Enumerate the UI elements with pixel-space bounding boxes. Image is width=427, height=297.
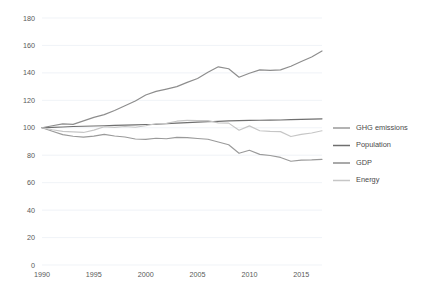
x-axis-tick-label: 2000 bbox=[138, 270, 154, 279]
y-axis-tick-label: 100 bbox=[23, 123, 35, 132]
x-axis-tick-label: 2010 bbox=[241, 270, 257, 279]
y-axis-tick-label: 120 bbox=[23, 96, 35, 105]
line-chart: 020406080100120140160180 199019952000200… bbox=[0, 0, 427, 297]
legend-label-population: Population bbox=[356, 140, 391, 149]
chart-container: 020406080100120140160180 199019952000200… bbox=[0, 0, 427, 297]
y-axis-tick-label: 180 bbox=[23, 14, 35, 23]
y-axis-tick-label: 60 bbox=[27, 178, 35, 187]
x-axis-tick-label: 2015 bbox=[293, 270, 309, 279]
x-axis-tick-labels: 199019952000200520102015 bbox=[34, 270, 309, 279]
gridlines bbox=[42, 18, 322, 265]
series-lines bbox=[42, 51, 322, 161]
y-axis-tick-label: 160 bbox=[23, 41, 35, 50]
x-axis-tick-label: 1990 bbox=[34, 270, 50, 279]
y-axis-tick-labels: 020406080100120140160180 bbox=[23, 14, 35, 270]
y-axis-tick-label: 140 bbox=[23, 68, 35, 77]
y-axis-tick-label: 0 bbox=[31, 261, 35, 270]
y-axis-tick-label: 20 bbox=[27, 233, 35, 242]
y-axis-tick-label: 40 bbox=[27, 206, 35, 215]
figure-caption bbox=[0, 287, 427, 297]
legend-label-ghg-emissions: GHG emissions bbox=[356, 123, 408, 132]
chart-legend: GHG emissionsPopulationGDPEnergy bbox=[333, 123, 408, 185]
series-line-gdp bbox=[42, 51, 322, 128]
y-axis-tick-label: 80 bbox=[27, 151, 35, 160]
legend-label-energy: Energy bbox=[356, 175, 380, 184]
x-axis-tick-label: 2005 bbox=[190, 270, 206, 279]
x-axis-tick-label: 1995 bbox=[86, 270, 102, 279]
legend-label-gdp: GDP bbox=[356, 158, 372, 167]
